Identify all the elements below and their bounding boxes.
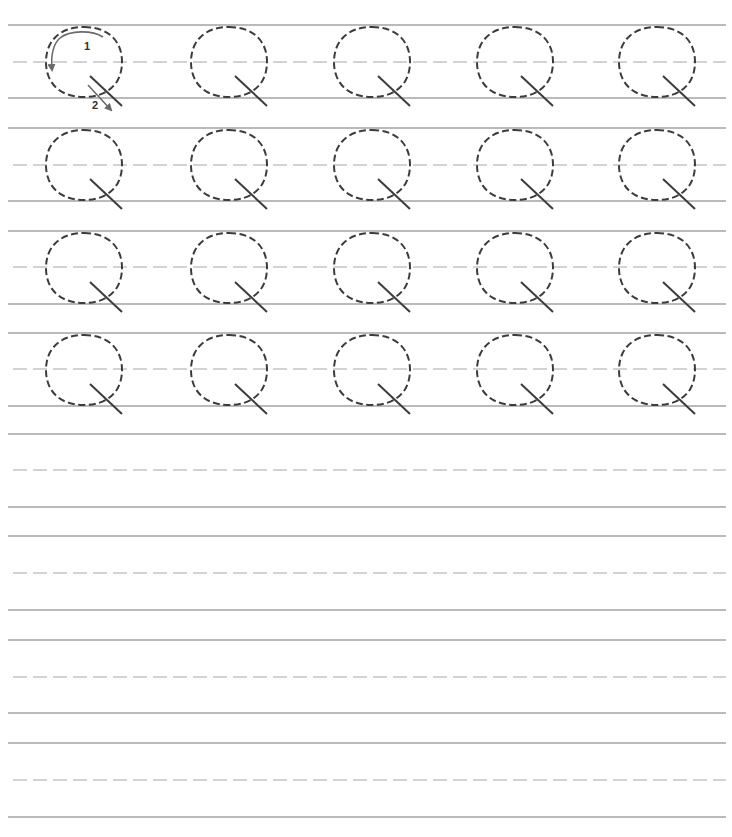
traceable-letter-q [191,27,267,106]
letter-bowl [191,335,267,405]
traceable-letter-q [334,233,410,312]
stroke-order-guide: 1 2 [52,32,111,111]
traceable-letter-q [46,27,122,106]
letter-bowl [46,233,122,303]
traceable-letter-q [477,335,553,414]
writing-row[interactable] [8,333,726,406]
letter-bowl [619,233,695,303]
traceable-letter-q [477,233,553,312]
letter-bowl [191,233,267,303]
traceable-letter-q [191,130,267,209]
writing-row[interactable] [8,743,726,817]
traceable-letter-q [477,27,553,106]
letter-bowl [334,233,410,303]
letter-bowl [334,335,410,405]
writing-row[interactable] [8,434,726,507]
writing-row[interactable] [8,128,726,201]
traceable-letter-q [334,130,410,209]
traced-letters [46,27,695,414]
traceable-letter-q [619,130,695,209]
writing-row[interactable] [8,640,726,713]
traceable-letter-q [191,233,267,312]
letter-bowl [477,335,553,405]
traceable-letter-q [619,335,695,414]
letter-bowl [619,335,695,405]
traceable-letter-q [334,335,410,414]
stroke-1-label: 1 [84,40,90,52]
handwriting-worksheet: 1 2 [0,0,732,837]
letter-bowl [477,233,553,303]
traceable-letter-q [619,233,695,312]
writing-row[interactable] [8,536,726,610]
traceable-letter-q [46,130,122,209]
writing-row[interactable] [8,25,726,98]
traceable-letter-q [477,130,553,209]
traceable-letter-q [619,27,695,106]
traceable-letter-q [46,233,122,312]
writing-row[interactable] [8,231,726,304]
traceable-letter-q [334,27,410,106]
traceable-letter-q [191,335,267,414]
letter-bowl [46,335,122,405]
traceable-letter-q [46,335,122,414]
stroke-1-arrow-icon [52,32,103,70]
stroke-2-label: 2 [92,99,98,111]
